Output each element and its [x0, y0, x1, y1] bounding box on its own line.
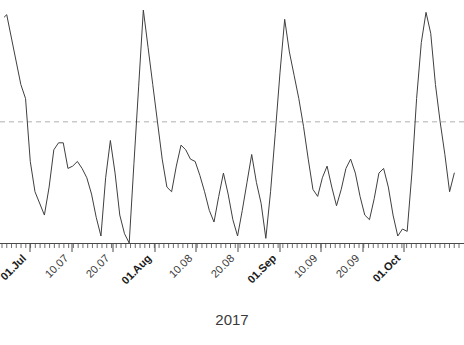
x-axis-title: 2017 — [215, 311, 248, 328]
chart-background — [0, 0, 464, 345]
line-chart: 01.Jul10.0720.0701.Aug10.0820.0801.Sep10… — [0, 0, 464, 345]
chart-container: 01.Jul10.0720.0701.Aug10.0820.0801.Sep10… — [0, 0, 464, 345]
